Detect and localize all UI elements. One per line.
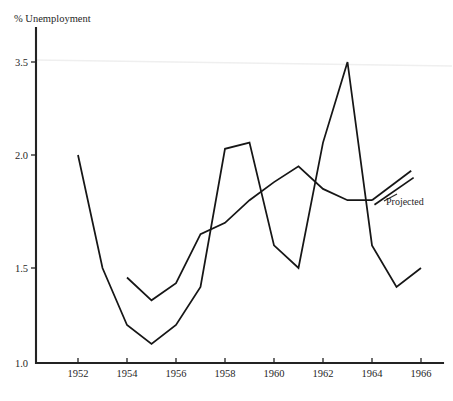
- unemployment-line-chart: 3.5 2.0 1.5 1.0 % Unemployment 1952 1954…: [0, 0, 453, 401]
- series-line-actual: [78, 62, 421, 344]
- x-tick-label-1956: 1956: [166, 368, 187, 379]
- x-tick-label-1966: 1966: [411, 368, 432, 379]
- x-tick-label-1954: 1954: [117, 368, 139, 379]
- chart-axes: [36, 28, 443, 363]
- x-tick-label-1960: 1960: [264, 368, 285, 379]
- y-tick-label-1-5: 1.5: [15, 263, 28, 274]
- y-tick-label-1-0: 1.0: [15, 358, 28, 369]
- chart-title: % Unemployment: [14, 13, 91, 24]
- chart-canvas: 3.5 2.0 1.5 1.0 % Unemployment 1952 1954…: [0, 0, 453, 401]
- x-axis-tick-labels: 1952 1954 1956 1958 1960 1962 1964 1966: [68, 368, 432, 379]
- y-tick-label-3-5: 3.5: [15, 57, 28, 68]
- x-tick-label-1962: 1962: [313, 368, 334, 379]
- y-tick-label-2-0: 2.0: [15, 150, 28, 161]
- x-tick-label-1958: 1958: [215, 368, 236, 379]
- scan-artifact-line: [36, 60, 452, 66]
- x-tick-label-1952: 1952: [68, 368, 89, 379]
- projected-annotation-label: Projected: [386, 196, 424, 207]
- x-tick-label-1964: 1964: [362, 368, 384, 379]
- series-line-projected: [127, 166, 372, 300]
- y-axis-tick-labels: 3.5 2.0 1.5 1.0: [15, 57, 28, 369]
